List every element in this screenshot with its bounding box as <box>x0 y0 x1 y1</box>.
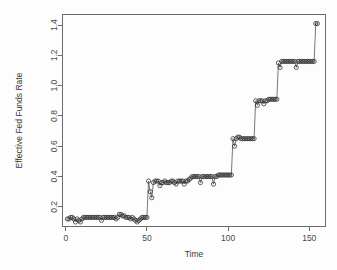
y-tick-label: 0.6 <box>50 140 60 152</box>
y-tick-label: 1.0 <box>50 79 60 91</box>
y-axis-title: Effective Fed Funds Rate <box>14 72 24 168</box>
x-axis-title: Time <box>185 249 204 259</box>
y-tick-label: 0.4 <box>50 170 60 182</box>
chart-container: 0501001500.20.40.60.81.01.21.4TimeEffect… <box>0 0 337 270</box>
x-tick-label: 150 <box>302 233 316 243</box>
series-line <box>67 24 317 222</box>
y-tick-label: 0.2 <box>50 201 60 213</box>
y-tick-label: 1.2 <box>50 49 60 61</box>
y-tick-label: 1.4 <box>50 19 60 31</box>
fed-funds-rate-chart: 0501001500.20.40.60.81.01.21.4TimeEffect… <box>0 0 337 270</box>
plot-frame <box>63 15 326 227</box>
x-tick-label: 50 <box>142 233 152 243</box>
x-tick-label: 100 <box>221 233 235 243</box>
series-points <box>65 21 319 224</box>
x-tick-label: 0 <box>63 233 68 243</box>
y-tick-label: 0.8 <box>50 110 60 122</box>
